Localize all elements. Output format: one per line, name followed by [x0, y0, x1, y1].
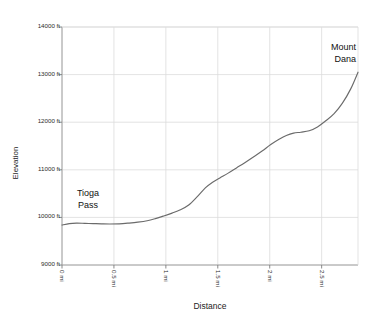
vertical-gridlines [62, 27, 322, 265]
x-tick-label-text: 0 mi [59, 270, 65, 282]
y-tick-label-text: 9000 ft [14, 261, 60, 267]
x-tick-label-1-5: 1.5 mi [213, 270, 223, 304]
y-tick-marks [59, 27, 63, 265]
x-tick-marks [62, 265, 322, 269]
x-tick-label-0-5: 0.5 mi [109, 270, 119, 304]
x-axis-title: Distance [62, 301, 358, 311]
y-tick-label-text: 13000 ft [14, 71, 60, 77]
annotation-tioga-pass: Tioga Pass [66, 188, 110, 211]
x-tick-label-text: 1 mi [163, 270, 169, 282]
annotation-mount-dana: Mount Dana [296, 42, 356, 65]
y-tick-label-text: 10000 ft [14, 213, 60, 219]
x-tick-label-0: 0 mi [57, 270, 67, 304]
y-axis-title-text: Elevation [11, 147, 20, 180]
x-tick-label-2-5: 2.5 mi [317, 270, 327, 304]
annotation-tioga-pass-line-2: Pass [66, 200, 110, 212]
y-tick-label-12000: 12000 ft [12, 118, 60, 126]
x-tick-label-text: 2.5 mi [319, 270, 325, 287]
annotation-tioga-pass-line-1: Tioga [66, 188, 110, 200]
y-tick-label-13000: 13000 ft [12, 71, 60, 79]
y-tick-label-10000: 10000 ft [12, 213, 60, 221]
x-tick-label-text: 1.5 mi [215, 270, 221, 287]
y-tick-label-text: 12000 ft [14, 118, 60, 124]
x-tick-label-text: 2 mi [267, 270, 273, 282]
x-tick-label-1: 1 mi [161, 270, 171, 304]
y-tick-label-text: 14000 ft [14, 23, 60, 29]
annotation-mount-dana-line-1: Mount [296, 42, 356, 54]
y-tick-label-9000: 9000 ft [12, 261, 60, 269]
elevation-profile-chart: 9000 ft10000 ft11000 ft12000 ft13000 ft1… [0, 0, 371, 325]
y-tick-label-14000: 14000 ft [12, 23, 60, 31]
x-tick-label-2: 2 mi [265, 270, 275, 304]
x-tick-label-text: 0.5 mi [111, 270, 117, 287]
annotation-mount-dana-line-2: Dana [296, 54, 356, 66]
y-axis-title: Elevation [8, 133, 22, 193]
